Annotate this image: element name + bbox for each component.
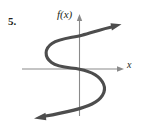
function-curve: [44, 27, 114, 117]
math-figure: 5. f(x) x: [0, 0, 141, 135]
coordinate-plane-svg: [0, 0, 141, 135]
curve-arrowhead-lower-left-icon: [34, 113, 46, 121]
x-axis-arrowhead-icon: [117, 66, 124, 72]
y-axis-arrowhead-icon: [77, 14, 82, 21]
curve-arrowhead-upper-right-icon: [111, 23, 122, 30]
